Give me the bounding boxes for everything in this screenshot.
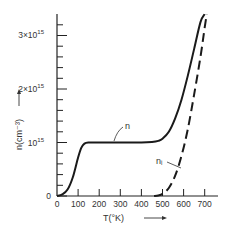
x-arrowhead-icon [162,216,167,220]
annotation-n-pointer [114,127,123,141]
x-tick-label: 200 [92,199,106,209]
y-ticks [57,25,67,196]
axes [57,14,218,196]
x-tick-label: 400 [134,199,148,209]
y-tick-label-3e15: 3×1015 [18,29,44,40]
series-n-line [57,14,205,196]
x-tick-labels: 0100200300400500600700 [55,199,212,209]
x-tick-label: 0 [55,199,60,209]
x-tick-label: 300 [113,199,127,209]
chart-canvas: 0 1015 2×1015 3×1015 0100200300400500600… [0,0,228,230]
x-ticks [78,189,205,196]
x-tick-label: 600 [177,199,191,209]
x-axis-label: T(°K) [103,213,124,223]
y-axis-label: n(cm⁻³) [14,119,24,150]
x-tick-label: 500 [155,199,169,209]
y-tick-label-1e15: 1015 [28,137,45,148]
x-tick-label: 100 [71,199,85,209]
annotation-n: n [125,121,130,131]
annotation-ni: nᵢ [156,156,162,166]
y-tick-labels: 0 1015 2×1015 3×1015 [18,29,51,201]
x-tick-label: 700 [198,199,212,209]
y-tick-label-2e15: 2×1015 [18,83,44,94]
y-tick-label-0: 0 [46,191,51,201]
